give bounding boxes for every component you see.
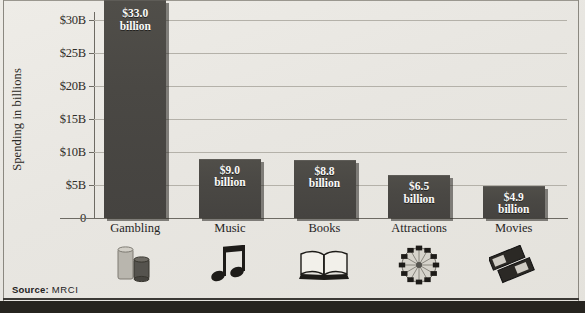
bar-value-unit: billion	[199, 176, 261, 189]
category-label-gambling: Gambling	[88, 221, 183, 236]
bar-value-unit: billion	[483, 203, 545, 216]
bar-value-unit: billion	[388, 193, 450, 206]
y-tick-label-30B: $30B	[60, 13, 86, 28]
y-tick-label-20B: $20B	[60, 79, 86, 94]
bar-value-amount: $6.5	[388, 180, 450, 193]
y-tick-mark	[89, 152, 94, 153]
y-tick-label-25B: $25B	[60, 46, 86, 61]
y-tick-mark	[89, 86, 94, 87]
bar-value-unit: billion	[104, 20, 166, 33]
y-axis-tick-labels: 0$5B$10B$15B$20B$25B$30B	[0, 0, 86, 313]
bar-books[interactable]: $8.8billion	[294, 160, 356, 218]
category-label-attractions: Attractions	[372, 221, 467, 236]
bar-value-label: $8.8billion	[294, 165, 356, 190]
bar-attractions[interactable]: $6.5billion	[388, 175, 450, 218]
y-tick-label-5B: $5B	[66, 178, 86, 193]
category-label-movies: Movies	[466, 221, 561, 236]
x-axis-line	[60, 218, 568, 219]
category-label-books: Books	[277, 221, 372, 236]
frame-bottom-band	[0, 301, 585, 313]
movie-tickets-icon	[466, 241, 561, 289]
frame-right-border	[578, 0, 579, 301]
bar-value-unit: billion	[294, 177, 356, 190]
bar-value-amount: $33.0	[104, 7, 166, 20]
y-tick-mark	[89, 119, 94, 120]
source-value: MRCI	[52, 284, 79, 295]
bar-movies[interactable]: $4.9billion	[483, 186, 545, 218]
y-tick-label-10B: $10B	[60, 145, 86, 160]
y-tick-mark	[89, 185, 94, 186]
poker-chips-icon	[88, 241, 183, 289]
bar-music[interactable]: $9.0billion	[199, 159, 261, 218]
bar-value-label: $33.0billion	[104, 7, 166, 32]
category-label-music: Music	[183, 221, 278, 236]
frame-bottom-line	[3, 298, 579, 300]
y-tick-mark	[89, 20, 94, 21]
bar-value-amount: $8.8	[294, 165, 356, 178]
y-tick-mark	[89, 53, 94, 54]
chart-figure: Spending in billions 0$5B$10B$15B$20B$25…	[0, 0, 585, 313]
frame-top-border	[3, 0, 579, 1]
bar-gambling[interactable]: $33.0billion	[104, 0, 166, 218]
source-prefix: Source:	[12, 284, 49, 295]
bar-value-amount: $4.9	[483, 191, 545, 204]
music-notes-icon	[183, 241, 278, 289]
y-tick-label-15B: $15B	[60, 112, 86, 127]
bar-value-label: $9.0billion	[199, 164, 261, 189]
bar-value-amount: $9.0	[199, 164, 261, 177]
source-note: Source:MRCI	[12, 284, 78, 295]
ferris-wheel-icon	[372, 241, 467, 289]
bar-value-label: $6.5billion	[388, 180, 450, 205]
open-book-icon	[277, 241, 372, 289]
bar-value-label: $4.9billion	[483, 191, 545, 216]
